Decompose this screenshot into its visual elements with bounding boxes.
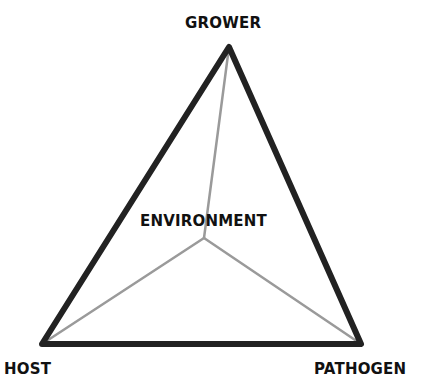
host-label: HOST: [4, 360, 51, 378]
pathogen-label: PATHOGEN: [314, 360, 406, 378]
environment-label: ENVIRONMENT: [140, 212, 267, 230]
outer-triangle: [42, 47, 361, 344]
pyramid-diagram: [0, 0, 439, 387]
grower-label: GROWER: [185, 14, 261, 32]
edge-center-host: [42, 238, 204, 344]
